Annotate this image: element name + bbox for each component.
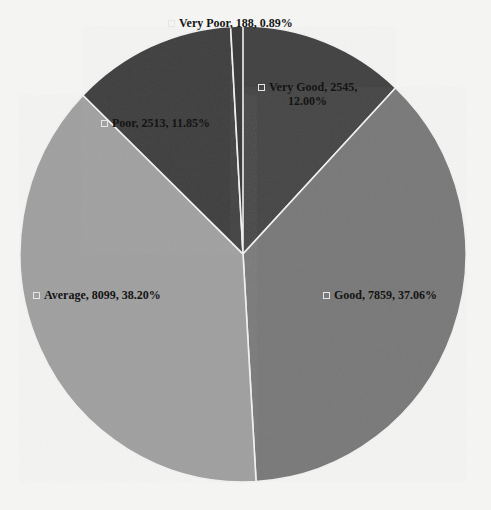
pie-chart-plot	[0, 0, 491, 510]
data-label-very-poor: Very Poor, 188, 0.89%	[168, 16, 293, 30]
data-label-average: Average, 8099, 38.20%	[33, 288, 161, 302]
legend-key-icon	[258, 84, 265, 91]
data-label-very-good: Very Good, 2545, 12.00%	[258, 80, 357, 108]
legend-key-icon	[101, 120, 108, 127]
legend-key-icon	[323, 292, 330, 299]
data-label-poor: Poor, 2513, 11.85%	[101, 116, 210, 130]
legend-key-icon	[168, 20, 175, 27]
pie-slices	[20, 26, 466, 482]
data-label-good: Good, 7859, 37.06%	[323, 288, 437, 302]
pie-chart: Very Good, 2545, 12.00% Good, 7859, 37.0…	[0, 0, 491, 510]
legend-key-icon	[33, 292, 40, 299]
